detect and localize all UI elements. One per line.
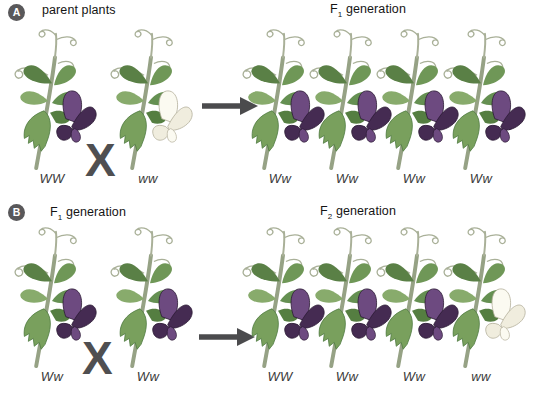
heading-text: F (320, 204, 328, 218)
genotype-label: Ww (403, 170, 425, 188)
pea-plant: ww (431, 222, 531, 390)
cross-symbol: X (85, 137, 116, 183)
pea-plant: Ww (98, 222, 198, 390)
heading-text: generation (332, 204, 396, 218)
panel-a: A parent plants F1 generation WW ww X Ww… (0, 0, 533, 199)
heading-text: F (50, 205, 58, 219)
genotype-label: Ww (137, 368, 159, 386)
genotype-label: Ww (470, 170, 492, 188)
cross-symbol: X (82, 335, 113, 381)
genotype-label: ww (138, 170, 157, 188)
genotype-label: ww (471, 368, 490, 386)
pea-plant-illustration (431, 24, 531, 170)
figure-canvas: A parent plants F1 generation WW ww X Ww… (0, 0, 533, 398)
panel-a-right-heading: F1 generation (330, 2, 406, 19)
genotype-label: Ww (336, 170, 358, 188)
panel-b: B F1 generation F2 generation Ww Ww X WW… (0, 199, 533, 398)
genotype-label: Ww (41, 368, 63, 386)
heading-text: generation (62, 205, 126, 219)
genotype-label: Ww (336, 368, 358, 386)
genotype-label: WW (267, 368, 292, 386)
pea-plant-illustration (98, 222, 198, 368)
heading-text: F (330, 2, 338, 16)
panel-a-badge: A (8, 4, 25, 21)
genotype-label: Ww (403, 368, 425, 386)
genotype-label: WW (39, 170, 64, 188)
panel-b-left-heading: F1 generation (50, 205, 126, 222)
panel-a-left-heading: parent plants (42, 3, 116, 20)
heading-text: parent plants (42, 3, 116, 17)
genotype-label: Ww (269, 170, 291, 188)
panel-b-right-heading: F2 generation (320, 204, 396, 221)
pea-plant: Ww (431, 24, 531, 192)
pea-plant-illustration (431, 222, 531, 368)
panel-b-badge: B (8, 204, 25, 221)
heading-text: generation (342, 2, 406, 16)
